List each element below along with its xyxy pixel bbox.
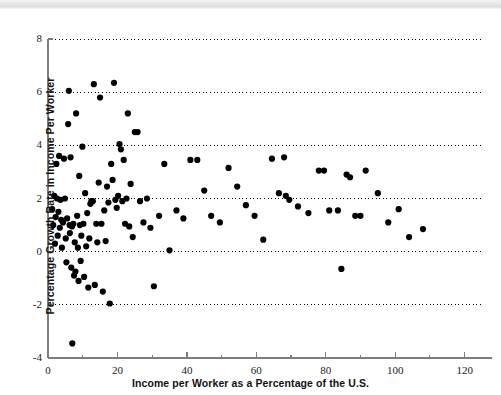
data-point bbox=[63, 235, 69, 241]
data-point bbox=[111, 80, 117, 86]
data-point bbox=[269, 156, 275, 162]
data-point bbox=[108, 161, 114, 167]
data-point bbox=[396, 206, 402, 212]
data-point bbox=[91, 81, 97, 87]
data-point bbox=[326, 207, 332, 213]
data-point bbox=[321, 167, 327, 173]
data-point bbox=[85, 284, 91, 290]
data-point bbox=[208, 213, 214, 219]
y-axis-title: Percentage Growth Rate in Income Per Wor… bbox=[44, 46, 56, 346]
data-point bbox=[79, 144, 85, 150]
x-tick-label-0: 0 bbox=[28, 364, 68, 376]
data-point bbox=[75, 245, 81, 251]
data-point bbox=[62, 195, 68, 201]
data-point bbox=[98, 221, 104, 227]
data-point bbox=[338, 266, 344, 272]
data-point bbox=[61, 156, 67, 162]
data-point bbox=[57, 225, 63, 231]
data-point bbox=[92, 282, 98, 288]
data-point bbox=[116, 141, 122, 147]
data-point bbox=[76, 173, 82, 179]
data-point bbox=[147, 225, 153, 231]
x-tick-label-60: 60 bbox=[236, 364, 276, 376]
data-point bbox=[173, 207, 179, 213]
data-point bbox=[187, 157, 193, 163]
data-point bbox=[128, 181, 134, 187]
data-points bbox=[49, 80, 426, 347]
data-point bbox=[107, 300, 113, 306]
data-point bbox=[75, 278, 81, 284]
data-point bbox=[180, 215, 186, 221]
data-point bbox=[72, 269, 78, 275]
data-point bbox=[104, 183, 110, 189]
data-point bbox=[305, 210, 311, 216]
data-point bbox=[286, 197, 292, 203]
data-point bbox=[59, 245, 65, 251]
x-tick-label-80: 80 bbox=[306, 364, 346, 376]
data-point bbox=[118, 146, 124, 152]
data-point bbox=[67, 154, 73, 160]
data-point bbox=[96, 179, 102, 185]
gridlines bbox=[48, 39, 482, 305]
data-point bbox=[357, 213, 363, 219]
data-point bbox=[70, 221, 76, 227]
data-point bbox=[64, 215, 70, 221]
data-point bbox=[130, 234, 136, 240]
data-point bbox=[74, 213, 80, 219]
data-point bbox=[72, 239, 78, 245]
data-point bbox=[126, 223, 132, 229]
data-point bbox=[225, 165, 231, 171]
data-point bbox=[276, 190, 282, 196]
y-tick-label-8: 8 bbox=[12, 32, 42, 44]
data-point bbox=[101, 207, 107, 213]
data-point bbox=[375, 190, 381, 196]
data-point bbox=[243, 202, 249, 208]
data-point bbox=[134, 129, 140, 135]
data-point bbox=[83, 243, 89, 249]
y-tick-label-6: 6 bbox=[12, 85, 42, 97]
data-point bbox=[78, 233, 84, 239]
data-point bbox=[281, 154, 287, 160]
data-point bbox=[137, 198, 143, 204]
data-point bbox=[100, 288, 106, 294]
plot-area-svg bbox=[0, 0, 501, 395]
data-point bbox=[67, 230, 73, 236]
data-point bbox=[295, 203, 301, 209]
data-point bbox=[82, 190, 88, 196]
data-point bbox=[94, 239, 100, 245]
data-point bbox=[194, 157, 200, 163]
data-point bbox=[151, 283, 157, 289]
data-point bbox=[80, 221, 86, 227]
data-point bbox=[114, 205, 120, 211]
data-point bbox=[123, 195, 129, 201]
data-point bbox=[55, 209, 61, 215]
data-point bbox=[84, 210, 90, 216]
x-tick-label-20: 20 bbox=[97, 364, 137, 376]
data-point bbox=[86, 235, 92, 241]
data-point bbox=[234, 183, 240, 189]
data-point bbox=[125, 110, 131, 116]
data-point bbox=[166, 247, 172, 253]
data-point bbox=[66, 88, 72, 94]
y-tick-label--2: -2 bbox=[12, 298, 42, 310]
scatter-chart: Income per Worker as a Percentage of the… bbox=[0, 0, 501, 395]
data-point bbox=[69, 340, 75, 346]
x-tick-label-100: 100 bbox=[375, 364, 415, 376]
data-point bbox=[109, 177, 115, 183]
data-point bbox=[251, 213, 257, 219]
y-tick-label-2: 2 bbox=[12, 192, 42, 204]
data-point bbox=[81, 274, 87, 280]
data-point bbox=[385, 219, 391, 225]
data-point bbox=[260, 237, 266, 243]
data-point bbox=[363, 167, 369, 173]
data-point bbox=[105, 199, 111, 205]
x-tick-label-40: 40 bbox=[167, 364, 207, 376]
data-point bbox=[121, 157, 127, 163]
data-point bbox=[140, 219, 146, 225]
data-point bbox=[420, 226, 426, 232]
x-ticks bbox=[83, 352, 465, 358]
data-point bbox=[406, 234, 412, 240]
data-point bbox=[217, 219, 223, 225]
data-point bbox=[90, 198, 96, 204]
data-point bbox=[65, 121, 71, 127]
